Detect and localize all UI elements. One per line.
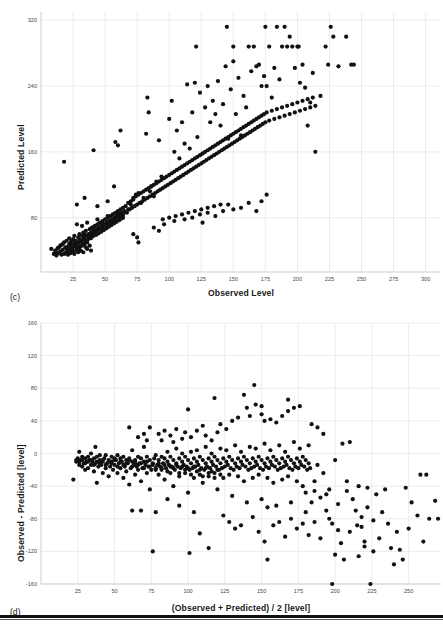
- svg-text:240: 240: [28, 83, 37, 89]
- svg-text:100: 100: [183, 588, 192, 594]
- figure-container: 2550751001251501752002252502753008016024…: [0, 0, 443, 628]
- svg-text:175: 175: [261, 276, 270, 282]
- svg-text:50: 50: [111, 588, 117, 594]
- panel-d-y-axis-title: Observed - Predicted [level]: [16, 444, 26, 562]
- svg-text:300: 300: [421, 276, 430, 282]
- svg-text:75: 75: [134, 276, 140, 282]
- svg-text:150: 150: [257, 588, 266, 594]
- bottom-divider-rule-secondary: [0, 619, 443, 620]
- svg-text:200: 200: [330, 588, 339, 594]
- svg-text:-120: -120: [26, 548, 37, 554]
- svg-text:225: 225: [325, 276, 334, 282]
- svg-text:320: 320: [28, 17, 37, 23]
- svg-text:225: 225: [367, 588, 376, 594]
- svg-text:100: 100: [165, 276, 174, 282]
- svg-text:250: 250: [404, 588, 413, 594]
- svg-text:25: 25: [75, 588, 81, 594]
- svg-text:120: 120: [28, 353, 37, 359]
- svg-text:25: 25: [70, 276, 76, 282]
- bottom-divider-rule: [0, 615, 443, 618]
- svg-text:-40: -40: [29, 483, 37, 489]
- y-tick-labels: -160-120-80-4004080120160: [26, 320, 37, 587]
- svg-text:125: 125: [197, 276, 206, 282]
- svg-text:-80: -80: [29, 516, 37, 522]
- svg-text:75: 75: [148, 588, 154, 594]
- x-tick-labels: 255075100125150175200225250275300: [70, 276, 430, 282]
- svg-text:40: 40: [31, 418, 37, 424]
- panel-d-scatter: 255075100125150175200225250-160-120-80-4…: [0, 310, 443, 620]
- panel-c-y-axis-title: Predicted Level: [16, 124, 26, 190]
- svg-text:160: 160: [28, 320, 37, 326]
- panel-c-label: (c): [10, 292, 20, 302]
- svg-text:50: 50: [102, 276, 108, 282]
- svg-text:175: 175: [294, 588, 303, 594]
- panel-d-plot-svg: 255075100125150175200225250-160-120-80-4…: [0, 310, 443, 620]
- svg-text:275: 275: [389, 276, 398, 282]
- svg-text:200: 200: [293, 276, 302, 282]
- data-points: [49, 25, 356, 258]
- x-tick-labels: 255075100125150175200225250: [75, 588, 414, 594]
- panel-c-scatter: 2550751001251501752002252502753008016024…: [0, 0, 443, 310]
- svg-text:125: 125: [220, 588, 229, 594]
- svg-text:-160: -160: [26, 581, 37, 587]
- svg-text:160: 160: [28, 149, 37, 155]
- data-points: [71, 383, 440, 586]
- panel-c-plot-svg: 2550751001251501752002252502753008016024…: [0, 0, 443, 310]
- svg-text:150: 150: [229, 276, 238, 282]
- panel-c-x-axis-title: Observed Level: [41, 288, 441, 298]
- svg-text:0: 0: [34, 451, 37, 457]
- panel-d-x-axis-title: (Observed + Predicted) / 2 [level]: [41, 603, 441, 613]
- svg-text:250: 250: [357, 276, 366, 282]
- y-tick-labels: 80160240320: [28, 17, 37, 220]
- svg-text:80: 80: [31, 385, 37, 391]
- svg-text:80: 80: [31, 215, 37, 221]
